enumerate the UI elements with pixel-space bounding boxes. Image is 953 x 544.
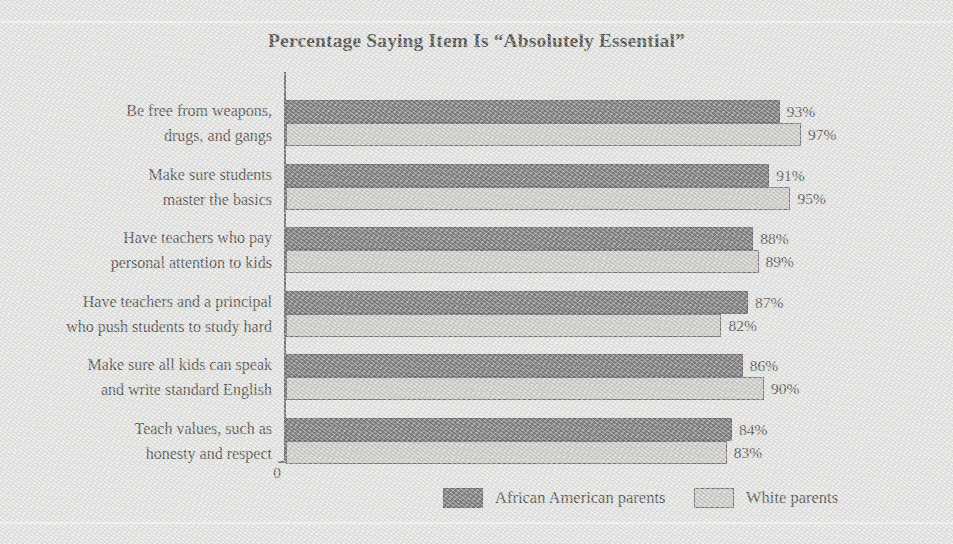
bar-value-label: 89% bbox=[766, 251, 794, 272]
bar-value-label: 95% bbox=[797, 188, 825, 209]
legend-label: African American parents bbox=[495, 488, 665, 508]
bar-white[interactable] bbox=[286, 377, 764, 400]
bar-white[interactable] bbox=[286, 187, 790, 210]
category-label: Make sure all kids can speak and write s… bbox=[0, 352, 272, 402]
category-label: Have teachers and a principal who push s… bbox=[0, 289, 272, 339]
bar-white[interactable] bbox=[286, 123, 801, 146]
bar-african-american[interactable] bbox=[286, 354, 743, 377]
bar-value-label: 91% bbox=[776, 165, 804, 186]
plot-area: 0 Be free from weapons, drugs, and gangs… bbox=[0, 23, 953, 522]
bar-row-series-1[interactable]: 97% bbox=[286, 123, 801, 146]
bar-white[interactable] bbox=[286, 441, 727, 464]
bar-group: Teach values, such as honesty and respec… bbox=[0, 418, 953, 464]
bar-value-label: 83% bbox=[734, 442, 762, 463]
bar-value-label: 88% bbox=[760, 228, 788, 249]
bar-value-label: 97% bbox=[808, 124, 836, 145]
bar-value-label: 86% bbox=[750, 355, 778, 376]
bar-value-label: 82% bbox=[728, 315, 756, 336]
bar-african-american[interactable] bbox=[286, 418, 732, 441]
bar-row-series-0[interactable]: 93% bbox=[286, 100, 780, 123]
bar-white[interactable] bbox=[286, 250, 759, 273]
origin-tick-mark bbox=[278, 461, 286, 463]
legend-label: White parents bbox=[746, 488, 838, 508]
bar-value-label: 90% bbox=[771, 378, 799, 399]
bar-group: Have teachers and a principal who push s… bbox=[0, 291, 953, 337]
category-label: Make sure students master the basics bbox=[0, 162, 272, 212]
bar-african-american[interactable] bbox=[286, 227, 753, 250]
bar-row-series-0[interactable]: 91% bbox=[286, 164, 769, 187]
bar-value-label: 84% bbox=[739, 419, 767, 440]
bar-value-label: 93% bbox=[787, 101, 815, 122]
bar-group: Be free from weapons, drugs, and gangs 9… bbox=[0, 100, 953, 146]
bar-group: Make sure all kids can speak and write s… bbox=[0, 354, 953, 400]
dark-swatch-icon bbox=[443, 488, 483, 508]
category-label: Have teachers who pay personal attention… bbox=[0, 225, 272, 275]
chart-legend: African American parents White parents bbox=[0, 485, 953, 515]
bar-row-series-1[interactable]: 89% bbox=[286, 250, 759, 273]
bar-group: Have teachers who pay personal attention… bbox=[0, 227, 953, 273]
legend-item-white-parents[interactable]: White parents bbox=[694, 485, 838, 511]
figure-bottom-rule bbox=[0, 522, 953, 524]
bar-row-series-0[interactable]: 86% bbox=[286, 354, 743, 377]
category-label: Teach values, such as honesty and respec… bbox=[0, 416, 272, 466]
bar-row-series-0[interactable]: 84% bbox=[286, 418, 732, 441]
bar-value-label: 87% bbox=[755, 292, 783, 313]
category-label: Be free from weapons, drugs, and gangs bbox=[0, 98, 272, 148]
bar-row-series-1[interactable]: 83% bbox=[286, 441, 727, 464]
bar-african-american[interactable] bbox=[286, 100, 780, 123]
origin-axis-label: 0 bbox=[266, 464, 288, 482]
bar-chart-figure: Percentage Saying Item Is “Absolutely Es… bbox=[0, 23, 953, 522]
bar-row-series-0[interactable]: 88% bbox=[286, 227, 753, 250]
bar-row-series-0[interactable]: 87% bbox=[286, 291, 748, 314]
bar-african-american[interactable] bbox=[286, 164, 769, 187]
bar-african-american[interactable] bbox=[286, 291, 748, 314]
bar-row-series-1[interactable]: 95% bbox=[286, 187, 790, 210]
y-axis-line bbox=[284, 72, 286, 462]
bar-white[interactable] bbox=[286, 314, 721, 337]
legend-item-african-american-parents[interactable]: African American parents bbox=[443, 485, 665, 511]
bar-group: Make sure students master the basics 91%… bbox=[0, 164, 953, 210]
bar-row-series-1[interactable]: 90% bbox=[286, 377, 764, 400]
light-swatch-icon bbox=[694, 488, 734, 508]
bar-row-series-1[interactable]: 82% bbox=[286, 314, 721, 337]
